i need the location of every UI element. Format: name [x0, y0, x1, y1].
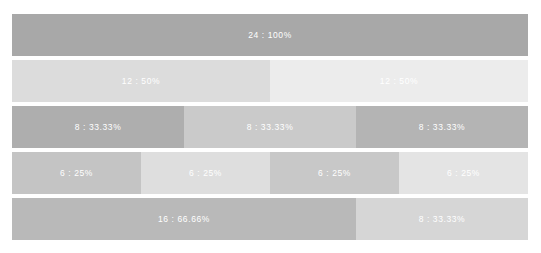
- bar-segment-label: 12 : 50%: [122, 77, 160, 86]
- bar-segment[interactable]: 24 : 100%: [12, 14, 528, 56]
- bar-segment-label: 8 : 33.33%: [419, 215, 466, 224]
- bar-segment[interactable]: 12 : 50%: [12, 60, 270, 102]
- bar-segment[interactable]: 6 : 25%: [12, 152, 141, 194]
- bar-segment[interactable]: 8 : 33.33%: [12, 106, 184, 148]
- bar-segment-label: 6 : 25%: [318, 169, 351, 178]
- bar-segment[interactable]: 8 : 33.33%: [356, 106, 528, 148]
- bar-row: 16 : 66.66%8 : 33.33%: [12, 198, 528, 240]
- bar-segment-label: 16 : 66.66%: [158, 215, 210, 224]
- bar-segment[interactable]: 6 : 25%: [141, 152, 270, 194]
- bar-segment-label: 8 : 33.33%: [419, 123, 466, 132]
- bar-segment-label: 8 : 33.33%: [75, 123, 122, 132]
- bar-segment-label: 8 : 33.33%: [247, 123, 294, 132]
- bar-segment[interactable]: 8 : 33.33%: [184, 106, 356, 148]
- bar-row: 24 : 100%: [12, 14, 528, 56]
- bar-segment-label: 12 : 50%: [380, 77, 418, 86]
- bar-segment[interactable]: 6 : 25%: [270, 152, 399, 194]
- bar-row: 8 : 33.33%8 : 33.33%8 : 33.33%: [12, 106, 528, 148]
- bar-segment[interactable]: 12 : 50%: [270, 60, 528, 102]
- bar-row: 6 : 25%6 : 25%6 : 25%6 : 25%: [12, 152, 528, 194]
- bar-segment-label: 24 : 100%: [248, 31, 292, 40]
- bar-segment-label: 6 : 25%: [60, 169, 93, 178]
- fraction-bar-chart: 24 : 100%12 : 50%12 : 50%8 : 33.33%8 : 3…: [0, 0, 541, 253]
- bar-segment[interactable]: 16 : 66.66%: [12, 198, 356, 240]
- bar-segment-label: 6 : 25%: [447, 169, 480, 178]
- bar-segment[interactable]: 6 : 25%: [399, 152, 528, 194]
- bar-segment-label: 6 : 25%: [189, 169, 222, 178]
- bar-row: 12 : 50%12 : 50%: [12, 60, 528, 102]
- bar-segment[interactable]: 8 : 33.33%: [356, 198, 528, 240]
